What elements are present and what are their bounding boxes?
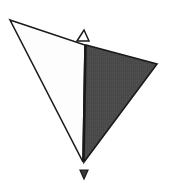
dark-triangular-face bbox=[84, 45, 157, 162]
geometric-figure bbox=[0, 0, 170, 194]
top-triangle-marker-icon bbox=[77, 30, 89, 41]
figure-canvas bbox=[0, 0, 170, 194]
light-triangular-face bbox=[10, 20, 85, 162]
bottom-triangle-marker-icon bbox=[80, 170, 88, 179]
